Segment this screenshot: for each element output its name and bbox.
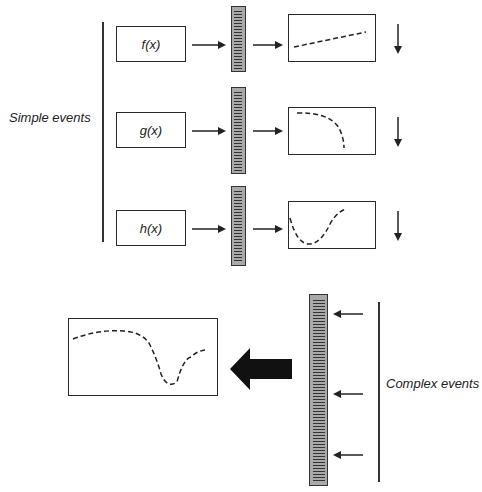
arrow-right-icon	[253, 224, 283, 234]
spectrum-bar-f	[231, 6, 246, 72]
arrow-right-icon	[253, 126, 283, 136]
spectrum-bar-g	[231, 87, 246, 174]
function-box-h: h(x)	[116, 210, 186, 246]
arrow-left-icon	[333, 389, 363, 399]
bold-arrow-left-icon[interactable]	[230, 348, 292, 390]
curve-rising-linear	[289, 15, 374, 60]
function-box-f: f(x)	[116, 26, 186, 62]
arrow-left-icon	[333, 450, 363, 460]
simple-events-bracket	[102, 22, 104, 242]
curve-dip-rise	[289, 202, 374, 247]
function-label-g: g(x)	[117, 123, 185, 138]
curve-decaying	[289, 108, 374, 153]
arrow-right-icon	[192, 40, 226, 50]
simple-events-label: Simple events	[9, 110, 91, 125]
arrow-left-icon	[333, 309, 363, 319]
arrow-down-icon	[393, 117, 403, 147]
spectrum-bar-complex	[309, 294, 328, 486]
arrow-down-icon	[393, 24, 403, 54]
output-plot-h	[288, 201, 376, 249]
complex-events-label: Complex events	[386, 376, 479, 391]
complex-events-bracket	[378, 302, 380, 482]
arrow-down-icon	[393, 211, 403, 241]
combined-output-plot	[68, 318, 218, 396]
arrow-right-icon	[253, 40, 283, 50]
function-label-f: f(x)	[117, 37, 185, 52]
output-plot-g	[288, 107, 376, 155]
function-label-h: h(x)	[117, 221, 185, 236]
output-plot-f	[288, 14, 376, 62]
arrow-right-icon	[192, 224, 226, 234]
spectrum-bar-h	[231, 186, 246, 266]
arrow-right-icon	[192, 126, 226, 136]
curve-combined	[69, 319, 216, 394]
function-box-g: g(x)	[116, 112, 186, 148]
